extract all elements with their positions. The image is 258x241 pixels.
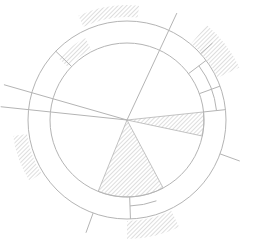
- diagram-canvas: [0, 0, 258, 241]
- seg-band-r: [204, 110, 226, 112]
- center-wedge-bottom: [98, 120, 163, 197]
- tick-bottom-left: [86, 213, 93, 233]
- seg-band-ur2: [199, 86, 220, 94]
- radial-diagram: [0, 0, 258, 241]
- ray-left: [1, 107, 127, 120]
- seg-band-b: [130, 197, 131, 219]
- outer-wedge-left: [13, 134, 41, 181]
- center-wedge-right: [127, 112, 204, 136]
- hatched-wedges: [13, 5, 239, 239]
- ray-left-upper: [4, 85, 127, 120]
- outer-wedge-top: [78, 5, 139, 27]
- mid-arc-bottom: [130, 201, 156, 206]
- tick-right: [220, 154, 240, 161]
- ray-upper-right: [127, 13, 177, 120]
